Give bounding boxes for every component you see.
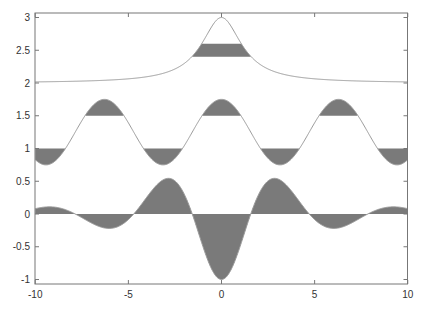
peak-band-fill [192, 44, 250, 57]
x-tick-label: 10 [402, 289, 414, 300]
y-tick-label: -0.5 [13, 241, 31, 252]
x-tick-label: 5 [312, 289, 318, 300]
y-tick-label: 1.5 [16, 110, 30, 121]
y-tick-label: 2.5 [16, 45, 30, 56]
y-tick-label: 2 [24, 78, 30, 89]
y-tick-label: 0 [24, 209, 30, 220]
fills [35, 44, 408, 280]
y-tick-label: 3 [24, 12, 30, 23]
wave-trough-fill [35, 149, 65, 165]
x-tick-label: -5 [124, 289, 133, 300]
y-tick-label: 1 [24, 143, 30, 154]
y-tick-label: 0.5 [16, 176, 30, 187]
chart: -10-50510 -1-0.500.511.522.53 [0, 0, 427, 315]
x-tick-label: -10 [28, 289, 43, 300]
x-tick-label: 0 [219, 289, 225, 300]
wave-trough-fill [378, 149, 408, 165]
damped-fill [35, 178, 408, 279]
y-tick-label: -1 [21, 274, 30, 285]
